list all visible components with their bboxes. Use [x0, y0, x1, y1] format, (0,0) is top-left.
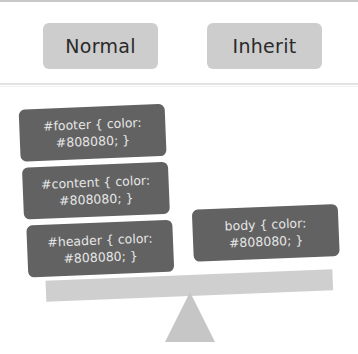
footer-rule-box: #footer { color: #808080; } [19, 104, 167, 162]
content-rule-box: #content { color: #808080; } [22, 162, 170, 220]
rule-line2: #808080; } [55, 131, 130, 151]
rule-line2: #808080; } [59, 189, 134, 209]
rule-line2: #808080; } [63, 247, 138, 267]
body-rule-box: body { color: #808080; } [192, 204, 340, 262]
header-rule-box: #header { color: #808080; } [26, 220, 174, 278]
fulcrum-triangle [165, 292, 215, 342]
rule-line2: #808080; } [229, 231, 304, 251]
